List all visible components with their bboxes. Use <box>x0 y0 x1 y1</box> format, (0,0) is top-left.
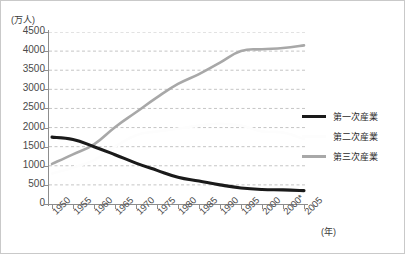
y-axis-tick-label: 1000 <box>5 159 45 170</box>
y-axis-tick-label: 3500 <box>5 63 45 74</box>
x-axis-unit-caption: (年) <box>321 225 336 238</box>
legend-swatch-icon <box>302 135 326 138</box>
y-axis-tick-label: 500 <box>5 178 45 189</box>
y-axis-tick-label: 4000 <box>5 44 45 55</box>
chart-figure: (万人) 45004000350030002500200015001000500… <box>0 0 405 254</box>
y-axis-tick-label: 4500 <box>5 25 45 36</box>
legend-swatch-icon <box>302 115 326 118</box>
legend-item[interactable]: 第一次産業 <box>302 106 402 126</box>
legend-item-label: 第一次産業 <box>333 110 378 123</box>
y-axis-tick-label: 0 <box>5 197 45 208</box>
y-axis-tick-label: 2000 <box>5 121 45 132</box>
legend-swatch-icon <box>302 155 326 158</box>
series-group <box>52 45 304 190</box>
legend-item[interactable]: 第三次産業 <box>302 146 402 166</box>
y-axis-tick-label: 2500 <box>5 101 45 112</box>
legend-item[interactable]: 第二次産業 <box>302 126 402 146</box>
chart-legend: 第一次産業第二次産業第三次産業 <box>302 106 402 166</box>
y-axis-tick-label: 3000 <box>5 82 45 93</box>
y-axis-tick-label: 1500 <box>5 140 45 151</box>
plot-area <box>49 32 307 204</box>
legend-item-label: 第二次産業 <box>333 130 378 143</box>
y-axis-tick-group: 450040003500300025002000150010005000 <box>1 1 45 256</box>
chart-canvas <box>49 32 307 204</box>
series-line <box>52 137 304 191</box>
legend-item-label: 第三次産業 <box>333 150 378 163</box>
